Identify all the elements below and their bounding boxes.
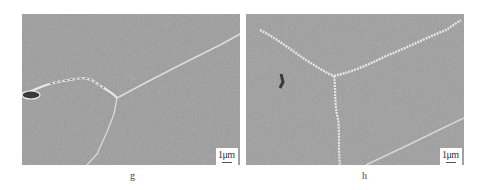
scale-bar-label-g: 1μm xyxy=(218,149,235,160)
panel-label-h: h xyxy=(362,170,367,181)
micrograph-g: 1μm xyxy=(22,14,240,165)
scale-bar-label-h: 1μm xyxy=(442,149,459,160)
micrograph-h-texture xyxy=(246,14,464,165)
micrograph-g-texture xyxy=(22,14,240,165)
scale-bar-g: 1μm xyxy=(216,148,238,165)
panel-label-g: g xyxy=(130,170,135,181)
scale-bar-line-h xyxy=(446,162,456,163)
scale-bar-line-g xyxy=(222,162,232,163)
scale-bar-h: 1μm xyxy=(440,148,462,165)
micrograph-h: 1μm xyxy=(246,14,464,165)
